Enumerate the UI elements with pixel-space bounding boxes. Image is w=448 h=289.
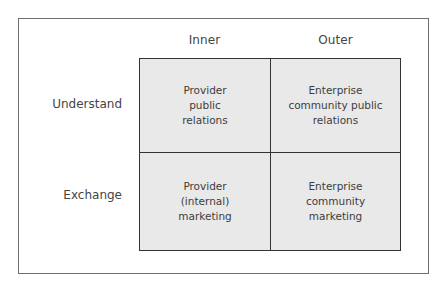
cell-text: Enterprise community marketing	[306, 179, 365, 224]
cell-text: Provider (internal) marketing	[178, 179, 232, 224]
column-header-outer: Outer	[270, 33, 401, 47]
cell-text: Provider public relations	[182, 83, 227, 128]
cell-text: Enterprise community public relations	[288, 83, 382, 128]
row-header-understand: Understand	[40, 97, 122, 111]
cell-exchange-outer: Enterprise community marketing	[271, 153, 400, 250]
column-header-inner: Inner	[139, 33, 270, 47]
matrix-grid: Provider public relations Enterprise com…	[139, 58, 401, 251]
row-header-exchange: Exchange	[40, 188, 122, 202]
cell-understand-outer: Enterprise community public relations	[271, 59, 400, 152]
cell-understand-inner: Provider public relations	[140, 59, 270, 152]
cell-exchange-inner: Provider (internal) marketing	[140, 153, 270, 250]
